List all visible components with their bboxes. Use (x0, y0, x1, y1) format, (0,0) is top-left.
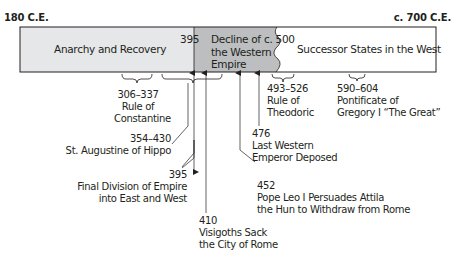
brace-gregory (349, 74, 365, 81)
event-date: 590–604 (337, 83, 440, 95)
brace-constantine (122, 74, 152, 83)
period-label-anarchy: Anarchy and Recovery (54, 43, 166, 55)
period-label-successor: Successor States in the West (297, 43, 441, 55)
event-text: Rule of (267, 95, 314, 107)
event-date: 493–526 (267, 83, 314, 95)
event-text: Final Division of Empire (77, 181, 187, 193)
event-text: the Hun to Withdraw from Rome (257, 204, 410, 216)
event-text: the City of Rome (199, 239, 278, 251)
event-text: Theodoric (267, 107, 314, 119)
period-label-decline-line1: Decline of (211, 33, 271, 46)
event-constantine: 306–337 Rule of Constantine (114, 89, 162, 125)
event-text: Rule of (114, 101, 162, 113)
event-text: into East and West (77, 193, 187, 205)
event-visigoths: 410 Visigoths Sack the City of Rome (199, 215, 278, 251)
event-gregory: 590–604 Pontificate of Gregory I “The Gr… (337, 83, 440, 119)
event-text: Pontificate of (337, 95, 440, 107)
event-text: Pope Leo I Persuades Attila (257, 192, 410, 204)
event-text: Visigoths Sack (199, 227, 278, 239)
event-date: 306–337 (114, 89, 162, 101)
period-label-decline-line2: the Western (211, 46, 271, 59)
period-label-decline: Decline of the Western Empire (211, 33, 271, 71)
brace-augustine (162, 74, 222, 83)
divider-label-500: c. 500 (264, 33, 295, 45)
connector-395-base (182, 140, 194, 172)
brace-theodoric (272, 74, 294, 82)
event-date: 354–430 (66, 133, 171, 145)
event-date: 410 (199, 215, 278, 227)
event-augustine: 354–430 St. Augustine of Hippo (66, 133, 171, 157)
event-last-emperor: 476 Last Western Emperor Deposed (252, 128, 337, 164)
period-label-decline-line3: Empire (211, 58, 271, 71)
event-text: Last Western (252, 140, 337, 152)
event-pope-leo: 452 Pope Leo I Persuades Attila the Hun … (257, 180, 410, 216)
event-theodoric: 493–526 Rule of Theodoric (267, 83, 314, 119)
event-date: 476 (252, 128, 337, 140)
event-text: St. Augustine of Hippo (66, 145, 171, 157)
event-text: Emperor Deposed (252, 152, 337, 164)
divider-label-395: 395 (180, 33, 199, 45)
connector-augustine (172, 83, 188, 144)
event-text: Gregory I “The Great” (337, 107, 440, 119)
event-text: Constantine (114, 113, 162, 125)
event-date: 395 (77, 169, 187, 181)
event-final-division: 395 Final Division of Empire into East a… (77, 169, 187, 205)
event-date: 452 (257, 180, 410, 192)
